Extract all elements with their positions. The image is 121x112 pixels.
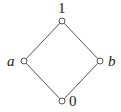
edge-top-right <box>64 23 98 59</box>
node-label-top: 1 <box>58 0 66 16</box>
node-top-circle-icon <box>59 18 65 24</box>
node-label-left: a <box>7 53 15 69</box>
edge-left-bottom <box>26 63 60 99</box>
node-bottom-circle-icon <box>59 98 65 104</box>
labels: 1 a b 0 <box>7 0 116 109</box>
nodes <box>21 18 103 104</box>
node-left-circle-icon <box>21 58 27 64</box>
node-label-bottom: 0 <box>69 93 77 109</box>
hasse-diagram: 1 a b 0 <box>0 0 121 112</box>
edge-top-left <box>26 23 60 59</box>
edges <box>26 23 98 99</box>
node-label-right: b <box>108 53 116 69</box>
node-right-circle-icon <box>97 58 103 64</box>
